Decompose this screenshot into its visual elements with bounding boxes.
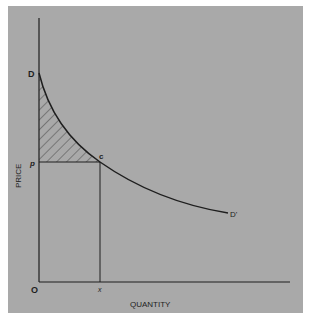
consumer-surplus-region xyxy=(39,73,100,162)
x-axis-label: QUANTITY xyxy=(130,300,171,309)
label-d: D xyxy=(28,69,35,79)
label-origin: O xyxy=(31,285,38,295)
y-axis-label: PRICE xyxy=(14,164,23,188)
label-x: x xyxy=(97,286,102,293)
demand-diagram: D p c D' O x QUANTITY PRICE xyxy=(0,0,312,323)
label-p: p xyxy=(29,159,35,168)
label-c: c xyxy=(99,152,104,161)
label-d-prime: D' xyxy=(230,210,238,219)
